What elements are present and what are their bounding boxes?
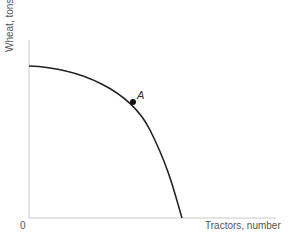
ppf-curve: [29, 66, 182, 218]
y-axis-label: Wheat, tons: [4, 0, 15, 52]
chart-canvas: [0, 0, 296, 241]
point-a-label: A: [137, 89, 144, 101]
origin-label: 0: [20, 220, 26, 231]
point-a-marker: [130, 99, 136, 105]
x-axis-label: Tractors, number: [205, 220, 281, 231]
